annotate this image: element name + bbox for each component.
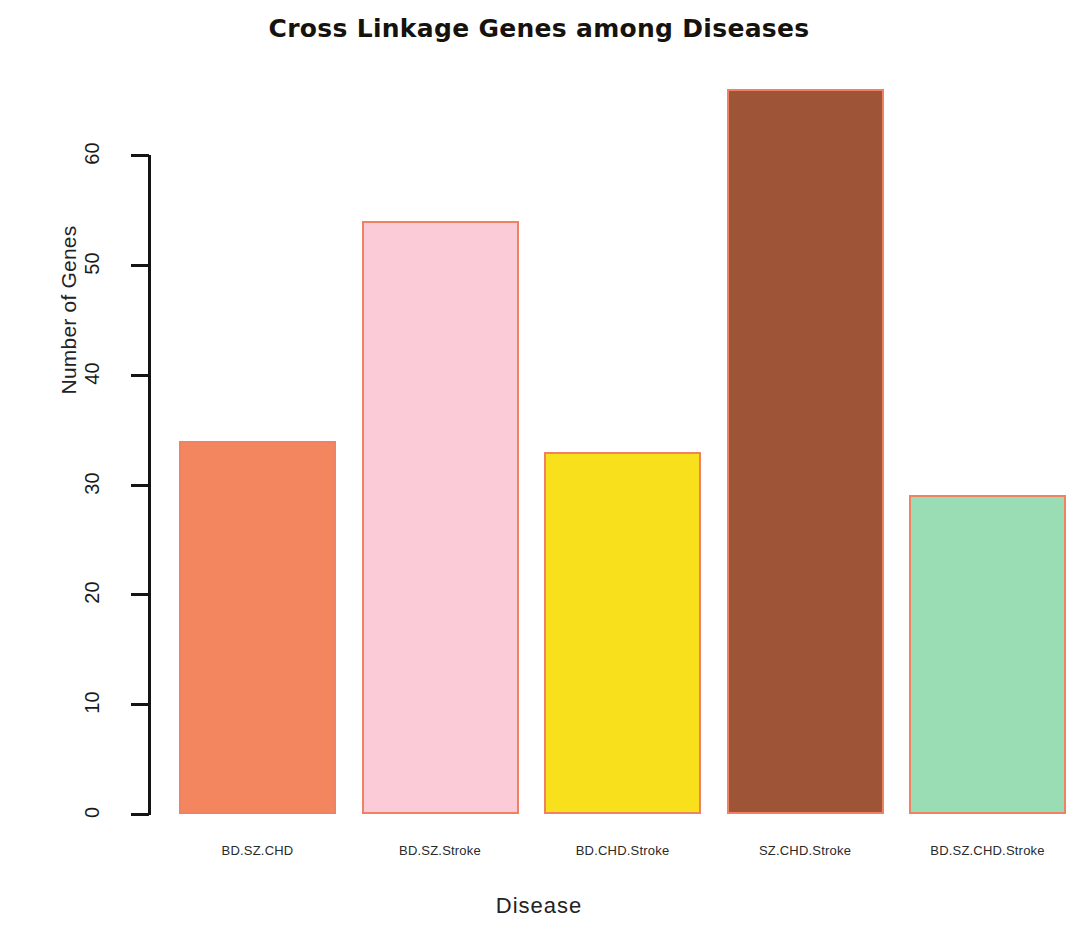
y-axis-tick (131, 593, 149, 596)
y-axis-tick-label: 0 (81, 783, 104, 843)
bar (544, 452, 701, 814)
y-axis-tick-label: 20 (81, 563, 104, 623)
y-axis-tick-label: 60 (81, 124, 104, 184)
y-axis-tick-label: 10 (81, 673, 104, 733)
y-axis-tick (131, 154, 149, 157)
y-axis-tick (131, 374, 149, 377)
y-axis-tick-label: 40 (81, 343, 104, 403)
bar (727, 89, 884, 814)
y-axis-tick (131, 813, 149, 816)
x-axis-tick-label: BD.SZ.CHD.Stroke (879, 843, 1078, 858)
y-axis-tick-label: 50 (81, 233, 104, 293)
bar-chart: Cross Linkage Genes among Diseases Numbe… (0, 0, 1078, 937)
plot-area: 0102030405060 BD.SZ.CHDBD.SZ.StrokeBD.CH… (0, 0, 1078, 937)
y-axis-tick (131, 264, 149, 267)
x-axis-title: Disease (0, 893, 1078, 919)
bar (909, 495, 1066, 814)
y-axis-tick (131, 703, 149, 706)
bar (362, 221, 519, 814)
bar (179, 441, 336, 814)
y-axis-tick (131, 484, 149, 487)
y-axis-tick-label: 30 (81, 453, 104, 513)
